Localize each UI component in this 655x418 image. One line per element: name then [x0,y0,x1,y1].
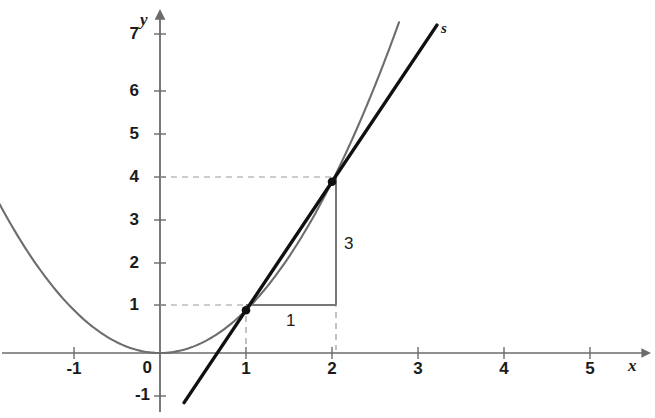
y-tick-label-7: 7 [130,24,139,44]
parabola [7,13,399,365]
y-tick-label-2: 2 [130,253,139,273]
y-tick-label-3: 3 [130,210,139,230]
x-tick-label-1: 1 [241,359,250,379]
y-axis-label: y [140,10,148,30]
point-Q-marker [328,178,337,187]
plot-canvas [0,0,655,418]
parabola-plot [7,38,160,188]
y-tick-label-0: 0 [143,358,152,378]
axes-group [2,18,643,412]
y-tick-label-4: 4 [130,167,139,187]
y-tick-label-5: 5 [130,124,139,144]
y-tick-label-6: 6 [130,81,139,101]
parabola-graph [8,187,300,291]
x-tick-label-minus1: -1 [66,359,81,379]
y-tick-label-1: 1 [130,295,139,315]
math-figure: 7 6 5 4 3 2 1 0 -1 -1 1 2 3 4 5 y x s 1 … [0,0,655,418]
x-axis-label: x [628,356,637,376]
guide-lines-group [160,177,336,350]
secant-curve-label: s [441,20,447,37]
parabola-curve-rendered [0,22,399,353]
parabola-curve [7,27,160,186]
x-tick-label-4: 4 [499,359,508,379]
point-P-marker [242,306,251,315]
slope-rise-label: 3 [344,234,353,254]
slope-run-label: 1 [286,311,295,331]
x-tick-label-2: 2 [327,359,336,379]
x-tick-label-5: 5 [585,359,594,379]
secant-line [184,25,437,403]
y-tick-label-minus1: -1 [135,385,150,405]
x-tick-label-3: 3 [413,359,422,379]
parabola-path [8,22,146,186]
